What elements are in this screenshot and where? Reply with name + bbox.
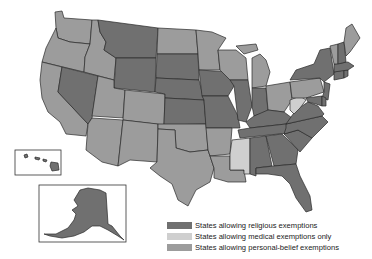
state-HI (24, 154, 59, 171)
state-NM (118, 120, 158, 166)
legend-item-medical-only: States allowing medical exemptions only (167, 231, 339, 242)
state-NY (290, 48, 334, 82)
legend-item-personal-belief: States allowing personal-belief exemptio… (167, 242, 339, 253)
state-SD (156, 54, 199, 80)
state-DE (322, 96, 326, 106)
state-ME (344, 24, 360, 56)
state-RI (344, 70, 348, 78)
state-CO (123, 90, 165, 125)
state-WY (114, 58, 156, 92)
hawaii-inset (15, 150, 61, 175)
state-MS (230, 138, 250, 174)
state-FL (256, 164, 312, 212)
legend-label-religious: States allowing religious exemptions (195, 220, 317, 231)
legend-swatch-personal-belief (167, 244, 192, 251)
alaska-inset (39, 185, 126, 242)
legend-item-religious: States allowing religious exemptions (167, 220, 339, 231)
state-OH (266, 82, 292, 112)
contiguous-states (40, 11, 360, 212)
state-AZ (86, 118, 123, 166)
state-KS (164, 98, 206, 125)
legend-label-personal-belief: States allowing personal-belief exemptio… (195, 242, 339, 253)
state-AR (206, 128, 232, 156)
state-MO (202, 96, 240, 128)
state-ND (157, 28, 198, 54)
legend-label-medical-only: States allowing medical exemptions only (195, 231, 331, 242)
state-PA (290, 78, 324, 98)
legend-swatch-medical-only (167, 233, 192, 240)
legend: States allowing religious exemptions Sta… (167, 220, 339, 253)
state-MT (98, 20, 158, 58)
state-AK (44, 188, 124, 240)
legend-swatch-religious (167, 222, 192, 229)
